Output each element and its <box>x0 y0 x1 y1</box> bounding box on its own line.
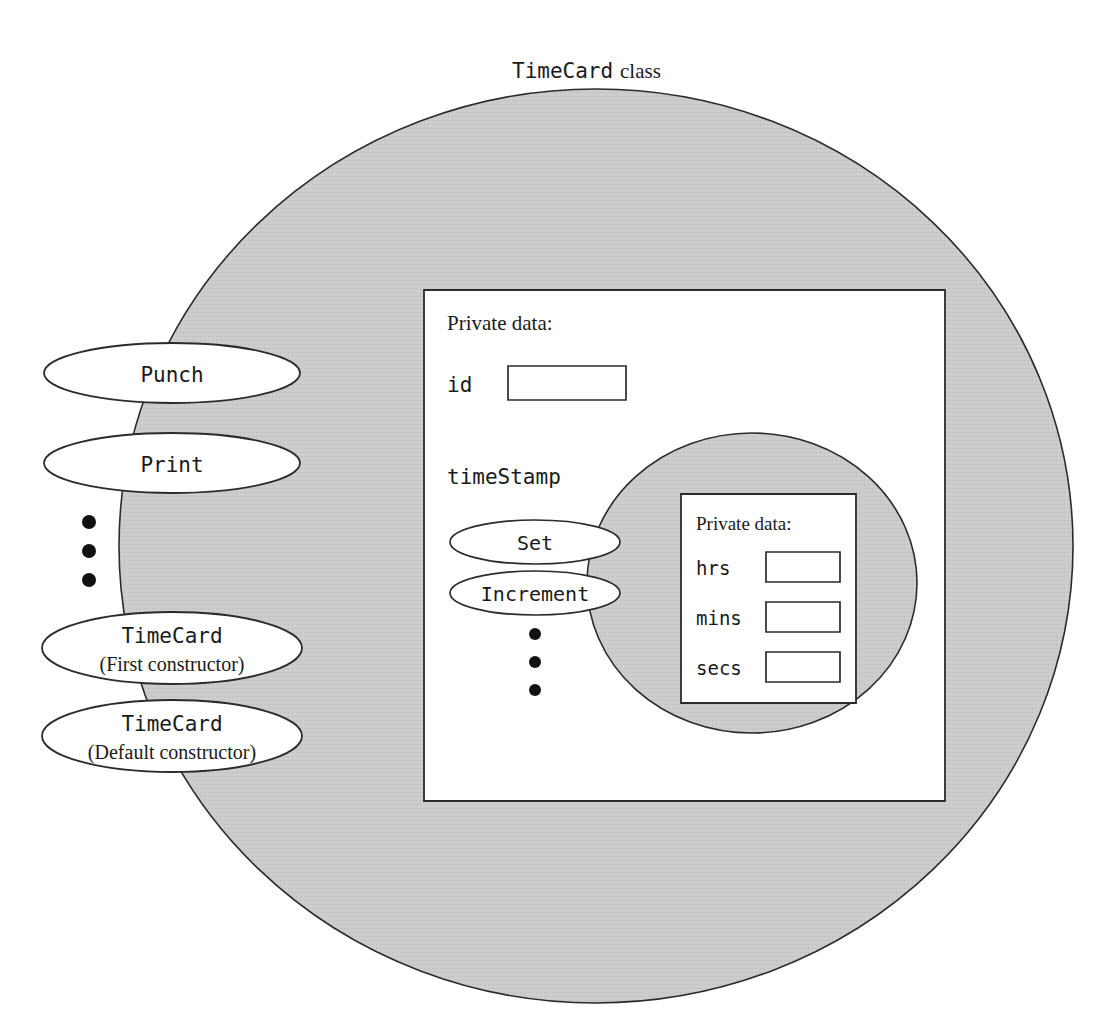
timestamp-ellipsis-dot-3 <box>529 684 541 696</box>
class-ellipsis-dot-1 <box>82 515 96 529</box>
timestamp-private-data-heading: Private data: <box>696 513 792 534</box>
timestamp-ellipsis-dot-1 <box>529 628 541 640</box>
field-label-id: id <box>447 373 472 397</box>
class-ellipsis-dot-2 <box>82 544 96 558</box>
timestamp-ellipsis-dot-2 <box>529 656 541 668</box>
diagram-title-serif: class <box>620 59 661 83</box>
field-value-box-mins[interactable] <box>766 602 840 632</box>
diagram-title-mono: TimeCard <box>512 59 613 83</box>
timestamp-method-label-increment: Increment <box>481 582 589 606</box>
field-label-timestamp: timeStamp <box>447 465 561 489</box>
method-label-timecard-first-line1: TimeCard <box>121 624 222 648</box>
timestamp-method-label-set: Set <box>517 531 553 555</box>
field-value-box-hrs[interactable] <box>766 552 840 582</box>
field-value-box-secs[interactable] <box>766 652 840 682</box>
method-label-timecard-default-line1: TimeCard <box>121 712 222 736</box>
method-label-timecard-first-line2: (First constructor) <box>100 653 245 676</box>
class-ellipsis-dot-3 <box>82 573 96 587</box>
field-label-secs: secs <box>696 657 742 679</box>
method-label-timecard-default-line2: (Default constructor) <box>88 741 256 764</box>
timecard-private-data-heading: Private data: <box>447 311 553 335</box>
field-label-hrs: hrs <box>696 557 730 579</box>
diagram-canvas: TimeCard class Private data: id timeStam… <box>0 0 1109 1035</box>
timecard-class-diagram: TimeCard class Private data: id timeStam… <box>0 0 1109 1035</box>
method-label-punch: Punch <box>140 363 203 387</box>
method-label-print: Print <box>140 453 203 477</box>
field-value-box-id[interactable] <box>508 366 626 400</box>
field-label-mins: mins <box>696 607 742 629</box>
